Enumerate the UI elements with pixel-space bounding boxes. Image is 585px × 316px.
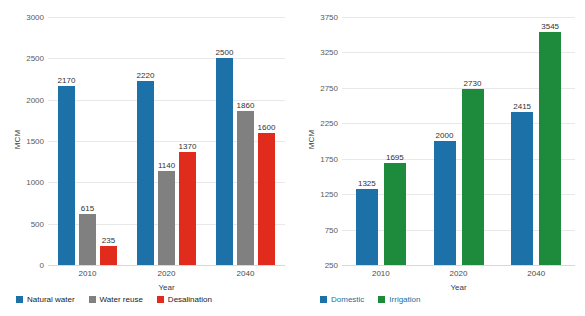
bar[interactable] <box>158 171 175 265</box>
bar[interactable] <box>79 214 96 265</box>
bar-slot: 3545 <box>539 17 561 265</box>
legend-label: Water reuse <box>100 295 143 304</box>
left-chart-y-tick-labels: 300025002000150010005000 <box>18 17 44 265</box>
bar-value-label: 615 <box>81 204 94 213</box>
bar[interactable] <box>137 81 154 265</box>
bar-slot: 1600 <box>258 17 275 265</box>
bar[interactable] <box>58 86 75 265</box>
bar-value-label: 3545 <box>541 22 559 31</box>
legend-item[interactable]: Domestic <box>320 295 364 304</box>
x-tick-label: 2040 <box>497 269 575 278</box>
bar-group: 20002730 <box>420 17 498 265</box>
x-tick-label: 2020 <box>127 269 206 278</box>
left-chart-legend: Natural waterWater reuseDesalination <box>16 295 226 304</box>
bar-slot: 2170 <box>58 17 75 265</box>
legend-label: Irrigation <box>389 295 420 304</box>
legend-swatch-icon <box>320 296 327 303</box>
y-tick-label: 1000 <box>18 178 44 187</box>
bar-value-label: 1600 <box>258 123 276 132</box>
bar-value-label: 2415 <box>513 102 531 111</box>
bar[interactable] <box>462 89 484 265</box>
right-chart-legend: DomesticIrrigation <box>320 295 434 304</box>
y-tick-label: 2750 <box>312 83 338 92</box>
x-tick-label: 2010 <box>342 269 420 278</box>
two-panel-bar-chart-figure: MCM 300025002000150010005000 21706152352… <box>0 0 585 316</box>
y-tick-label: 3000 <box>18 13 44 22</box>
bar-group: 250018601600 <box>206 17 285 265</box>
y-tick-label: 1500 <box>18 137 44 146</box>
bar-value-label: 1860 <box>237 101 255 110</box>
gridline <box>48 265 285 266</box>
x-tick-label: 2040 <box>206 269 285 278</box>
y-tick-label: 1250 <box>312 190 338 199</box>
bar[interactable] <box>216 58 233 265</box>
right-chart-x-tick-labels: 201020202040 <box>342 269 575 278</box>
legend-label: Domestic <box>331 295 364 304</box>
bar-value-label: 1370 <box>179 142 197 151</box>
legend-item[interactable]: Natural water <box>16 295 75 304</box>
bar-value-label: 1325 <box>358 179 376 188</box>
y-tick-label: 1750 <box>312 154 338 163</box>
bar-slot: 1860 <box>237 17 254 265</box>
y-tick-label: 750 <box>312 225 338 234</box>
bar-value-label: 2730 <box>464 79 482 88</box>
legend-swatch-icon <box>157 296 164 303</box>
y-tick-label: 0 <box>18 261 44 270</box>
bar[interactable] <box>179 152 196 265</box>
legend-label: Natural water <box>27 295 75 304</box>
y-tick-label: 2000 <box>18 95 44 104</box>
bar[interactable] <box>100 246 117 265</box>
x-tick-label: 2010 <box>48 269 127 278</box>
left-chart-plot-area: 2170615235222011401370250018601600 <box>48 17 285 265</box>
bar-group: 222011401370 <box>127 17 206 265</box>
bar-slot: 2500 <box>216 17 233 265</box>
bar[interactable] <box>384 163 406 265</box>
legend-swatch-icon <box>16 296 23 303</box>
y-tick-label: 3750 <box>312 13 338 22</box>
bar-group: 2170615235 <box>48 17 127 265</box>
bar-value-label: 2000 <box>436 131 454 140</box>
bar-slot: 2730 <box>462 17 484 265</box>
y-tick-label: 2500 <box>18 54 44 63</box>
legend-item[interactable]: Water reuse <box>89 295 143 304</box>
bar-value-label: 1140 <box>158 161 175 170</box>
bar[interactable] <box>539 32 561 265</box>
legend-item[interactable]: Irrigation <box>378 295 420 304</box>
right-chart-bar-groups: 132516952000273024153545 <box>342 17 575 265</box>
bar-slot: 615 <box>79 17 96 265</box>
right-chart-y-tick-labels: 375032502750225017501250750250 <box>312 17 338 265</box>
bar-group: 24153545 <box>497 17 575 265</box>
bar[interactable] <box>434 141 456 265</box>
bar-slot: 2000 <box>434 17 456 265</box>
y-tick-label: 250 <box>312 261 338 270</box>
bar[interactable] <box>237 111 254 265</box>
bar[interactable] <box>356 189 378 265</box>
bar-value-label: 2220 <box>137 71 155 80</box>
legend-label: Desalination <box>168 295 212 304</box>
legend-swatch-icon <box>378 296 385 303</box>
gridline <box>342 265 575 266</box>
bar-value-label: 2500 <box>216 48 234 57</box>
bar-value-label: 1695 <box>386 153 404 162</box>
bar-slot: 1695 <box>384 17 406 265</box>
bar-slot: 1325 <box>356 17 378 265</box>
left-chart-panel: MCM 300025002000150010005000 21706152352… <box>0 0 292 316</box>
y-tick-label: 500 <box>18 219 44 228</box>
bar-group: 13251695 <box>342 17 420 265</box>
bar-slot: 1370 <box>179 17 196 265</box>
bar-slot: 2415 <box>511 17 533 265</box>
bar[interactable] <box>511 112 533 265</box>
left-chart-bar-groups: 2170615235222011401370250018601600 <box>48 17 285 265</box>
bar-value-label: 2170 <box>58 76 76 85</box>
left-chart-x-tick-labels: 201020202040 <box>48 269 285 278</box>
y-tick-label: 2250 <box>312 119 338 128</box>
bar-slot: 2220 <box>137 17 154 265</box>
right-chart-plot-area: 132516952000273024153545 <box>342 17 575 265</box>
left-chart-x-axis-label: Year <box>48 283 285 292</box>
bar[interactable] <box>258 133 275 265</box>
bar-value-label: 235 <box>102 236 115 245</box>
right-chart-panel: MCM 375032502750225017501250750250 13251… <box>292 0 585 316</box>
bar-slot: 1140 <box>158 17 175 265</box>
legend-item[interactable]: Desalination <box>157 295 212 304</box>
y-tick-label: 3250 <box>312 48 338 57</box>
